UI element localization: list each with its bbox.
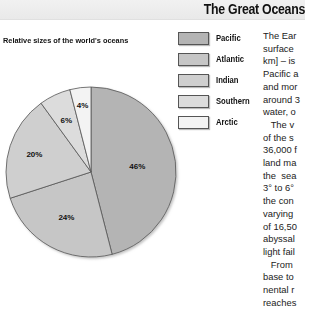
page-header: The Great Oceans (0, 0, 305, 20)
body-line: reaches (263, 297, 320, 309)
body-line: of 16,50 (263, 221, 320, 234)
legend-item-pacific: Pacific (178, 32, 258, 46)
body-line: the con (263, 195, 320, 208)
body-line: The v (263, 119, 320, 132)
page-title: The Great Oceans (204, 1, 305, 17)
body-line: km] – is (263, 55, 320, 68)
legend-swatch (178, 32, 209, 45)
slice-value-label: 20% (26, 150, 42, 159)
legend-label: Pacific (216, 33, 241, 43)
body-line: nental r (263, 284, 320, 297)
body-line: and mor (263, 81, 320, 94)
body-line: around 3 (263, 94, 320, 107)
pie-chart: 46%24%20%6%4% (0, 80, 185, 262)
legend-swatch (178, 53, 209, 66)
body-text-column: The Ear surface km] – is Pacific a and m… (263, 30, 320, 309)
slice-value-label: 4% (77, 101, 89, 110)
body-line: light fail (263, 246, 320, 259)
body-line: surface (263, 43, 320, 56)
body-line: 36,000 f (263, 144, 320, 157)
legend-swatch (178, 74, 209, 87)
body-line: of the s (263, 132, 320, 145)
legend-swatch (178, 116, 209, 129)
legend-item-indian: Indian (178, 74, 258, 88)
slice-value-label: 46% (129, 162, 145, 171)
chart-title: Relative sizes of the world's oceans (3, 36, 128, 45)
slice-value-label: 6% (61, 116, 73, 125)
body-line: The Ear (263, 30, 320, 43)
body-line: varying (263, 208, 320, 221)
body-line: Pacific a (263, 68, 320, 81)
legend-swatch (178, 95, 209, 108)
legend-item-arctic: Arctic (178, 116, 258, 130)
body-line: base to (263, 271, 320, 284)
body-line: the sea (263, 170, 320, 183)
slice-value-label: 24% (58, 213, 74, 222)
legend-item-southern: Southern (178, 95, 258, 109)
legend-label: Southern (216, 96, 250, 106)
body-line: abyssal (263, 233, 320, 246)
legend-label: Arctic (216, 117, 238, 127)
legend-item-atlantic: Atlantic (178, 53, 258, 67)
body-line: From (263, 259, 320, 272)
body-line: 3° to 6° (263, 182, 320, 195)
body-line: water, o (263, 106, 320, 119)
body-line: land ma (263, 157, 320, 170)
legend-label: Atlantic (216, 54, 244, 64)
legend-label: Indian (216, 75, 239, 85)
